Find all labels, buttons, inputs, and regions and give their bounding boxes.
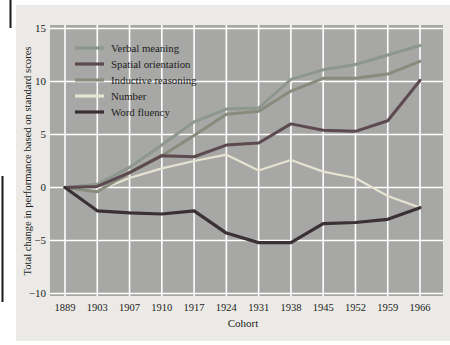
y-tick-label-10: 10: [35, 75, 47, 87]
y-tick-label-0: 0: [41, 181, 47, 193]
cohort-effects-line-chart: 151050−5−10 1889190319071910191719241931…: [0, 0, 450, 345]
y-axis-title: Total change in performance based on sta…: [22, 47, 33, 276]
y-tick-label--10: −10: [29, 287, 47, 299]
x-axis-title: Cohort: [228, 317, 259, 329]
plot-panel: [50, 25, 443, 296]
legend-label-verbal-meaning: Verbal meaning: [111, 42, 180, 54]
y-tick-label--5: −5: [34, 234, 46, 246]
legend-label-inductive-reasoning: Inductive reasoning: [111, 74, 197, 86]
x-tick-label-1966: 1966: [410, 302, 431, 313]
x-tick-label-1959: 1959: [377, 302, 398, 313]
y-tick-label-15: 15: [35, 22, 47, 34]
x-tick-label-1917: 1917: [184, 302, 205, 313]
x-tick-label-1907: 1907: [119, 302, 140, 313]
legend-label-word-fluency: Word fluency: [111, 106, 170, 118]
x-tick-label-1938: 1938: [280, 302, 301, 313]
x-tick-label-1931: 1931: [248, 302, 269, 313]
figure: 151050−5−10 1889190319071910191719241931…: [0, 0, 450, 345]
legend-label-spatial-orientation: Spatial orientation: [111, 58, 191, 70]
x-tick-label-1924: 1924: [216, 302, 238, 313]
x-tick-label-1903: 1903: [87, 302, 108, 313]
page-rule-left: [2, 176, 4, 302]
x-tick-label-1952: 1952: [345, 302, 366, 313]
x-tick-label-1945: 1945: [313, 302, 334, 313]
x-tick-label-1910: 1910: [151, 302, 172, 313]
y-tick-label-5: 5: [41, 128, 47, 140]
legend-label-number: Number: [111, 90, 147, 102]
page-rule-top: [10, 0, 12, 28]
x-tick-label-1889: 1889: [55, 302, 76, 313]
